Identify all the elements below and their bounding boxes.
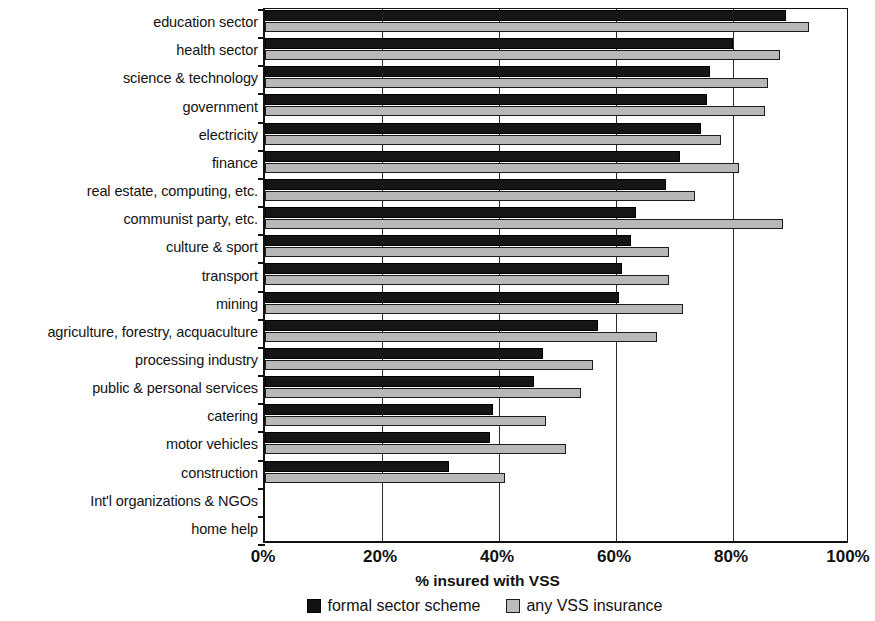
bar-formal-sector-scheme <box>265 66 710 77</box>
y-axis-label: health sector <box>176 42 258 58</box>
x-tick-label: 60% <box>597 547 631 567</box>
y-axis-label: science & technology <box>123 70 258 86</box>
y-axis-tick <box>258 375 265 377</box>
x-tick-label: 40% <box>480 547 514 567</box>
bar-any-vss-insurance <box>265 219 783 229</box>
y-axis-label: motor vehicles <box>166 436 258 452</box>
bar-any-vss-insurance <box>265 444 566 454</box>
legend-item-any-vss-insurance: any VSS insurance <box>506 597 662 615</box>
bar-formal-sector-scheme <box>265 179 666 190</box>
bar-row <box>265 291 847 319</box>
bar-any-vss-insurance <box>265 275 669 285</box>
x-axis-title: % insured with VSS <box>0 572 875 590</box>
y-axis-label: communist party, etc. <box>123 211 258 227</box>
bar-rows <box>265 9 847 541</box>
legend-label-any: any VSS insurance <box>526 597 662 615</box>
bar-formal-sector-scheme <box>265 432 490 443</box>
bar-formal-sector-scheme <box>265 461 449 472</box>
y-axis-label: construction <box>181 465 258 481</box>
y-axis-tick <box>258 403 265 405</box>
y-axis-tick <box>258 431 265 433</box>
y-axis-label: real estate, computing, etc. <box>87 183 258 199</box>
bar-formal-sector-scheme <box>265 404 493 415</box>
bar-any-vss-insurance <box>265 416 546 426</box>
bar-row <box>265 122 847 150</box>
bar-row <box>265 403 847 431</box>
bar-any-vss-insurance <box>265 191 695 201</box>
x-tick-label: 100% <box>826 547 869 567</box>
y-axis-tick <box>258 150 265 152</box>
bar-formal-sector-scheme <box>265 376 534 387</box>
plot-area <box>263 8 848 543</box>
y-axis-label: agriculture, forestry, acquaculture <box>47 324 258 340</box>
bar-formal-sector-scheme <box>265 235 631 246</box>
bar-row <box>265 488 847 516</box>
y-axis-tick <box>258 234 265 236</box>
bar-any-vss-insurance <box>265 332 657 342</box>
bar-row <box>265 431 847 459</box>
bar-formal-sector-scheme <box>265 38 733 49</box>
bar-chart: education sectorhealth sectorscience & t… <box>0 0 875 621</box>
bar-formal-sector-scheme <box>265 348 543 359</box>
legend-item-formal-sector-scheme: formal sector scheme <box>307 597 480 615</box>
bar-row <box>265 9 847 37</box>
bar-formal-sector-scheme <box>265 94 707 105</box>
y-axis-tick <box>258 178 265 180</box>
bar-any-vss-insurance <box>265 135 721 145</box>
y-axis-tick <box>258 347 265 349</box>
bar-row <box>265 178 847 206</box>
bar-row <box>265 150 847 178</box>
bar-formal-sector-scheme <box>265 292 619 303</box>
bar-row <box>265 319 847 347</box>
bar-any-vss-insurance <box>265 473 505 483</box>
bar-row <box>265 37 847 65</box>
y-axis-label: processing industry <box>135 352 258 368</box>
bar-any-vss-insurance <box>265 50 780 60</box>
y-axis-tick <box>258 122 265 124</box>
x-tick-label: 80% <box>714 547 748 567</box>
bar-formal-sector-scheme <box>265 263 622 274</box>
bar-row <box>265 65 847 93</box>
bar-row <box>265 206 847 234</box>
chart-legend: formal sector scheme any VSS insurance <box>0 597 875 615</box>
legend-label-formal: formal sector scheme <box>327 597 480 615</box>
bar-row <box>265 262 847 290</box>
y-axis-tick <box>258 37 265 39</box>
y-axis-tick <box>258 65 265 67</box>
bar-any-vss-insurance <box>265 360 593 370</box>
bar-formal-sector-scheme <box>265 151 680 162</box>
y-axis-tick <box>258 460 265 462</box>
x-tick-label: 20% <box>363 547 397 567</box>
y-axis-label: home help <box>191 521 258 537</box>
y-axis-tick <box>258 488 265 490</box>
y-axis-tick <box>258 93 265 95</box>
bar-row <box>265 234 847 262</box>
bar-formal-sector-scheme <box>265 123 701 134</box>
y-axis-tick <box>258 9 265 11</box>
bar-row <box>265 93 847 121</box>
y-axis-label: government <box>182 99 258 115</box>
y-axis-label: catering <box>207 408 258 424</box>
bar-any-vss-insurance <box>265 106 765 116</box>
y-axis-tick <box>258 206 265 208</box>
y-axis-label: Int'l organizations & NGOs <box>90 493 258 509</box>
formal-swatch-icon <box>307 599 321 613</box>
bar-any-vss-insurance <box>265 247 669 257</box>
y-axis-tick <box>258 319 265 321</box>
bar-any-vss-insurance <box>265 163 739 173</box>
bar-any-vss-insurance <box>265 304 683 314</box>
y-axis-label: finance <box>212 155 258 171</box>
bar-formal-sector-scheme <box>265 10 786 21</box>
bar-row <box>265 347 847 375</box>
y-axis-label: culture & sport <box>166 239 258 255</box>
y-axis-tick <box>258 544 265 546</box>
bar-row <box>265 375 847 403</box>
bar-any-vss-insurance <box>265 388 581 398</box>
x-axis-title-text: % insured with VSS <box>415 572 560 590</box>
bar-row <box>265 460 847 488</box>
y-axis-tick <box>258 291 265 293</box>
bar-formal-sector-scheme <box>265 320 598 331</box>
bar-formal-sector-scheme <box>265 207 636 218</box>
y-axis-tick <box>258 516 265 518</box>
y-axis-label: electricity <box>199 127 258 143</box>
